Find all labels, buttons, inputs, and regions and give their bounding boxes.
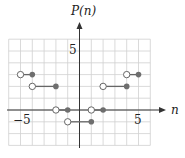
- y-axis-arrow-icon: [77, 22, 83, 29]
- open-endpoint-icon: [88, 107, 94, 113]
- step-segment: [17, 71, 35, 77]
- open-endpoint-icon: [29, 83, 35, 89]
- closed-endpoint-icon: [89, 119, 95, 125]
- x-tick-label-neg5: −5: [13, 113, 31, 127]
- x-tick-label-5: 5: [134, 113, 142, 127]
- closed-endpoint-icon: [53, 84, 59, 90]
- open-endpoint-icon: [100, 83, 106, 89]
- step-segment: [53, 107, 71, 113]
- step-segment: [88, 107, 106, 113]
- closed-endpoint-icon: [65, 107, 71, 113]
- closed-endpoint-icon: [136, 72, 142, 78]
- closed-endpoint-icon: [100, 107, 106, 113]
- step-segment: [124, 71, 142, 77]
- open-endpoint-icon: [17, 71, 23, 77]
- closed-endpoint-icon: [30, 72, 36, 78]
- x-axis-arrow-icon: [159, 107, 166, 113]
- open-endpoint-icon: [124, 71, 130, 77]
- step-function-chart: P(n) n −5 5 5: [0, 0, 185, 158]
- open-endpoint-icon: [53, 107, 59, 113]
- y-axis-label: P(n): [70, 4, 96, 18]
- closed-endpoint-icon: [124, 84, 130, 90]
- x-axis-label: n: [171, 103, 179, 117]
- open-endpoint-icon: [65, 119, 71, 125]
- y-tick-label-5: 5: [69, 43, 77, 57]
